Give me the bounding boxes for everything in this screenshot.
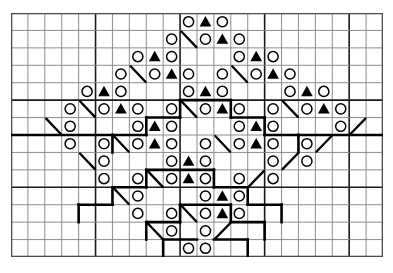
yarn-over-circle-icon: [133, 174, 143, 184]
yarn-over-circle-icon: [99, 104, 109, 114]
yarn-over-circle-icon: [234, 208, 244, 218]
yarn-over-circle-icon: [268, 156, 278, 166]
decrease-triangle-icon: [200, 16, 212, 26]
decrease-triangle-icon: [250, 138, 262, 148]
yarn-over-circle-icon: [234, 104, 244, 114]
diagonal-stitch-icon: [148, 171, 163, 187]
decrease-triangle-icon: [217, 103, 229, 113]
yarn-over-circle-icon: [167, 121, 177, 131]
knitting-chart: [11, 13, 383, 257]
decrease-triangle-icon: [217, 190, 229, 200]
yarn-over-circle-icon: [133, 104, 143, 114]
yarn-over-circle-icon: [133, 121, 143, 131]
yarn-over-circle-icon: [268, 52, 278, 62]
yarn-over-circle-icon: [200, 208, 210, 218]
yarn-over-circle-icon: [167, 156, 177, 166]
diagonal-stitch-icon: [283, 101, 298, 117]
yarn-over-circle-icon: [217, 17, 227, 27]
yarn-over-circle-icon: [183, 86, 193, 96]
decrease-triangle-icon: [250, 51, 262, 61]
yarn-over-circle-icon: [99, 139, 109, 149]
yarn-over-circle-icon: [200, 243, 210, 253]
chart-grid-svg: [11, 13, 383, 257]
yarn-over-circle-icon: [268, 104, 278, 114]
diagonal-stitch-icon: [131, 66, 146, 82]
decrease-triangle-icon: [149, 138, 161, 148]
decrease-triangle-icon: [183, 155, 195, 165]
diagonal-stitch-icon: [181, 101, 196, 117]
diagonal-stitch-icon: [215, 136, 230, 152]
diagonal-stitch-icon: [148, 223, 163, 239]
yarn-over-circle-icon: [65, 104, 75, 114]
yarn-over-circle-icon: [167, 226, 177, 236]
yarn-over-circle-icon: [133, 191, 143, 201]
yarn-over-circle-icon: [217, 69, 227, 79]
yarn-over-circle-icon: [167, 104, 177, 114]
yarn-over-circle-icon: [65, 121, 75, 131]
yarn-over-circle-icon: [217, 86, 227, 96]
diagonal-stitch-icon: [232, 66, 247, 82]
yarn-over-circle-icon: [183, 17, 193, 27]
yarn-over-circle-icon: [99, 156, 109, 166]
yarn-over-circle-icon: [234, 121, 244, 131]
decrease-triangle-icon: [301, 86, 313, 96]
decrease-triangle-icon: [318, 103, 330, 113]
decrease-triangle-icon: [217, 33, 229, 43]
yarn-over-circle-icon: [268, 139, 278, 149]
diagonal-stitch-icon: [80, 153, 95, 169]
yarn-over-circle-icon: [251, 69, 261, 79]
yarn-over-circle-icon: [234, 34, 244, 44]
yarn-over-circle-icon: [285, 86, 295, 96]
yarn-over-circle-icon: [167, 52, 177, 62]
decrease-triangle-icon: [200, 86, 212, 96]
yarn-over-circle-icon: [183, 69, 193, 79]
yarn-over-circle-icon: [200, 191, 210, 201]
yarn-over-circle-icon: [167, 174, 177, 184]
decrease-triangle-icon: [98, 86, 110, 96]
decrease-triangle-icon: [250, 121, 262, 131]
diagonal-stitch-up-icon: [350, 119, 365, 135]
diagonal-stitch-up-icon: [283, 153, 298, 169]
yarn-over-circle-icon: [82, 86, 92, 96]
diagonal-stitch-up-icon: [316, 136, 331, 152]
yarn-over-circle-icon: [65, 139, 75, 149]
yarn-over-circle-icon: [302, 156, 312, 166]
yarn-over-circle-icon: [336, 104, 346, 114]
decrease-triangle-icon: [183, 173, 195, 183]
yarn-over-circle-icon: [200, 226, 210, 236]
yarn-over-circle-icon: [133, 139, 143, 149]
diagonal-stitch-icon: [114, 188, 129, 204]
yarn-over-circle-icon: [234, 52, 244, 62]
yarn-over-circle-icon: [116, 86, 126, 96]
yarn-over-circle-icon: [167, 208, 177, 218]
yarn-over-circle-icon: [133, 208, 143, 218]
yarn-over-circle-icon: [200, 156, 210, 166]
yarn-over-circle-icon: [116, 69, 126, 79]
yarn-over-circle-icon: [302, 104, 312, 114]
yarn-over-circle-icon: [285, 69, 295, 79]
yarn-over-circle-icon: [302, 139, 312, 149]
diagonal-stitch-icon: [181, 31, 196, 47]
yarn-over-circle-icon: [99, 174, 109, 184]
diagonal-stitch-icon: [114, 136, 129, 152]
decrease-triangle-icon: [217, 208, 229, 218]
yarn-over-circle-icon: [133, 52, 143, 62]
diagonal-stitch-icon: [80, 101, 95, 117]
yarn-over-circle-icon: [234, 191, 244, 201]
yarn-over-circle-icon: [167, 34, 177, 44]
diagonal-stitch-up-icon: [249, 171, 264, 187]
yarn-over-circle-icon: [200, 34, 210, 44]
diagonal-stitch-up-icon: [215, 223, 230, 239]
yarn-over-circle-icon: [167, 139, 177, 149]
yarn-over-circle-icon: [200, 174, 210, 184]
yarn-over-circle-icon: [150, 69, 160, 79]
decrease-triangle-icon: [149, 51, 161, 61]
decrease-triangle-icon: [149, 121, 161, 131]
yarn-over-circle-icon: [319, 86, 329, 96]
diagonal-stitch-icon: [46, 119, 61, 135]
diagonal-stitch-icon: [181, 206, 196, 222]
yarn-over-circle-icon: [336, 121, 346, 131]
yarn-over-circle-icon: [268, 121, 278, 131]
yarn-over-circle-icon: [183, 243, 193, 253]
yarn-over-circle-icon: [234, 139, 244, 149]
